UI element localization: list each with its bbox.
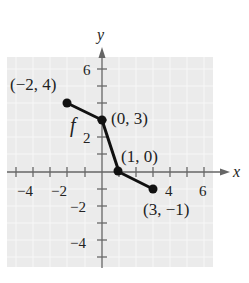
x-axis-label: x: [232, 163, 240, 180]
data-point: [98, 116, 107, 125]
function-graph: x y −4 −2 4 6 6 2 −2 −4 f (−2, 4) (0, 3)…: [0, 0, 249, 283]
data-point: [63, 99, 72, 108]
point-label: (1, 0): [121, 147, 158, 166]
y-axis-label: y: [95, 26, 105, 44]
y-tick-label: 6: [83, 62, 91, 78]
point-label: (−2, 4): [10, 75, 56, 94]
x-tick-label: 4: [165, 183, 173, 199]
data-point: [149, 185, 158, 194]
y-axis-arrow-icon: [99, 47, 106, 58]
y-tick-label: −2: [70, 199, 86, 215]
point-label: (0, 3): [111, 109, 148, 128]
x-tick-label: −2: [51, 183, 67, 199]
y-tick-label: 2: [83, 130, 91, 146]
x-tick-label: 6: [199, 183, 207, 199]
data-point: [114, 167, 123, 176]
x-tick-label: −4: [17, 183, 33, 199]
x-axis-arrow-icon: [220, 169, 230, 176]
y-tick-label: −4: [70, 235, 86, 251]
point-label: (3, −1): [143, 200, 189, 219]
